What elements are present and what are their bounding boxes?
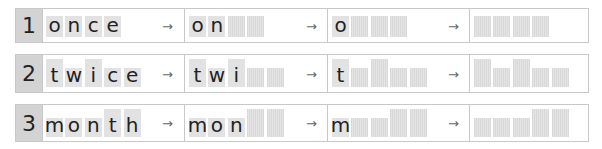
arrow-right-icon: → xyxy=(162,19,173,34)
blank-letter-box xyxy=(247,68,264,87)
stage-cell-2: mon→ xyxy=(184,105,328,141)
letter-box: i xyxy=(228,59,245,87)
blank-letter-box xyxy=(228,16,245,37)
blank-letter-box xyxy=(474,118,491,137)
letter-box: o xyxy=(332,16,349,37)
letter-box: n xyxy=(85,118,102,137)
letter-box: m xyxy=(46,118,63,137)
arrow-right-icon: → xyxy=(162,116,173,131)
arrow-right-icon: → xyxy=(448,19,459,34)
letter-box: c xyxy=(85,16,102,37)
blank-letter-box xyxy=(247,109,264,137)
blank-letter-box xyxy=(351,68,368,87)
blank-letter-box xyxy=(493,16,510,37)
letter-box: m xyxy=(189,118,206,137)
blank-letter-box xyxy=(351,16,368,37)
blank-letter-box xyxy=(390,109,407,137)
blank-letter-box xyxy=(371,16,388,37)
letter-box: w xyxy=(65,68,82,87)
exercise-row: 2twice→twi→t→ xyxy=(15,54,589,93)
blank-letter-box xyxy=(552,68,569,87)
letter-box: h xyxy=(124,109,141,137)
arrow-right-icon: → xyxy=(306,116,317,131)
letter-box: t xyxy=(104,109,121,137)
blank-letter-box xyxy=(410,109,427,137)
stage-cell-3: m→ xyxy=(327,105,470,141)
blank-letter-box xyxy=(474,59,491,87)
exercise-row: 3month→mon→m→ xyxy=(15,104,589,142)
blank-letter-box xyxy=(371,118,388,137)
stage-cell-1: twice→ xyxy=(42,55,184,92)
letter-box: t xyxy=(46,59,63,87)
blank-letter-box xyxy=(371,59,388,87)
row-number: 1 xyxy=(16,9,43,42)
letter-box: e xyxy=(104,16,121,37)
blank-letter-box xyxy=(513,59,530,87)
blank-letter-box xyxy=(474,16,491,37)
blank-letter-box xyxy=(532,16,549,37)
stage-cell-1: once→ xyxy=(42,9,184,42)
row-number: 3 xyxy=(16,105,43,141)
blank-letter-box xyxy=(532,68,549,87)
arrow-right-icon: → xyxy=(306,67,317,82)
exercise-row: 1once→on→o→ xyxy=(15,8,589,43)
letter-box: n xyxy=(208,16,225,37)
stage-cell-4 xyxy=(469,55,591,92)
blank-letter-box xyxy=(267,68,284,87)
letter-box: e xyxy=(124,68,141,87)
stage-cell-1: month→ xyxy=(42,105,184,141)
letter-box: w xyxy=(208,68,225,87)
arrow-right-icon: → xyxy=(162,67,173,82)
blank-letter-box xyxy=(532,109,549,137)
letter-box: c xyxy=(104,68,121,87)
blank-letter-box xyxy=(513,16,530,37)
blank-letter-box xyxy=(410,68,427,87)
blank-letter-box xyxy=(267,109,284,137)
letter-box: m xyxy=(332,118,349,137)
blank-letter-box xyxy=(513,118,530,137)
stage-cell-4 xyxy=(469,105,591,141)
arrow-right-icon: → xyxy=(448,67,459,82)
blank-letter-box xyxy=(247,16,264,37)
letter-box: i xyxy=(85,59,102,87)
stage-cell-3: o→ xyxy=(327,9,470,42)
letter-box: t xyxy=(332,59,349,87)
blank-letter-box xyxy=(493,118,510,137)
stage-cell-2: twi→ xyxy=(184,55,328,92)
stage-cell-3: t→ xyxy=(327,55,470,92)
letter-box: o xyxy=(65,118,82,137)
letter-box: o xyxy=(208,118,225,137)
stage-cell-2: on→ xyxy=(184,9,328,42)
letter-box: o xyxy=(189,16,206,37)
blank-letter-box xyxy=(390,68,407,87)
blank-letter-box xyxy=(552,109,569,137)
stage-cell-4 xyxy=(469,9,591,42)
arrow-right-icon: → xyxy=(306,19,317,34)
blank-letter-box xyxy=(351,118,368,137)
blank-letter-box xyxy=(390,16,407,37)
letter-box: n xyxy=(228,118,245,137)
letter-box: n xyxy=(65,16,82,37)
row-number: 2 xyxy=(16,55,43,92)
blank-letter-box xyxy=(493,68,510,87)
arrow-right-icon: → xyxy=(448,116,459,131)
letter-box: o xyxy=(46,16,63,37)
letter-box: t xyxy=(189,59,206,87)
